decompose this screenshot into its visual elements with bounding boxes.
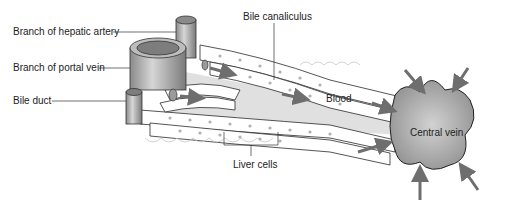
- label-blood: Blood: [326, 94, 352, 104]
- faint-cells-top: [300, 62, 360, 65]
- label-liver-cells: Liver cells: [233, 160, 277, 170]
- label-central-vein: Central vein: [410, 128, 463, 138]
- portal-branch-opening: [169, 89, 177, 101]
- portal-vein-tube: [130, 38, 186, 90]
- label-bile-canaliculus: Bile canaliculus: [243, 12, 312, 22]
- bile-duct-tube: [126, 89, 142, 125]
- central-vein: [390, 80, 474, 169]
- artery-branch-opening: [202, 60, 208, 70]
- label-bile-duct: Bile duct: [13, 96, 51, 106]
- label-portal-vein: Branch of portal vein: [13, 63, 105, 73]
- label-hepatic-artery: Branch of hepatic artery: [13, 27, 119, 37]
